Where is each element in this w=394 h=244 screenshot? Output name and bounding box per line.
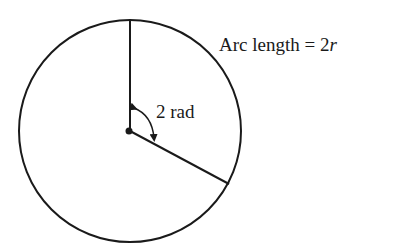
angle-label: 2 rad: [156, 101, 195, 122]
radian-diagram: 2 rad Arc length = 2r: [0, 0, 394, 244]
center-point: [126, 128, 133, 135]
radius-angled: [130, 131, 229, 184]
arc-length-label: Arc length = 2r: [219, 34, 337, 55]
angle-arc-arrow-icon: [134, 108, 154, 138]
